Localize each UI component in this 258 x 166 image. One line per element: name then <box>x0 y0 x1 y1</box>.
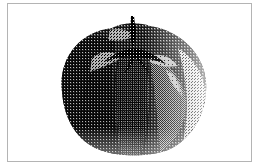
tomato-image: Dithered halftone photograph of a ribbed… <box>0 0 258 166</box>
tomato-illustration <box>0 0 258 166</box>
